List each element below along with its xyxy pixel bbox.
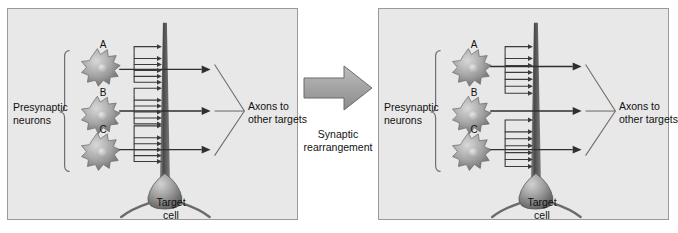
synaptic-rearrangement-arrow — [298, 60, 378, 116]
neuron-letter-a: A — [95, 39, 111, 50]
synapse-group-a — [134, 47, 157, 83]
axon-a-arrowhead — [573, 62, 582, 70]
synapse-group-c — [505, 120, 528, 167]
panel-before-rearrangement: A B C Presynaptic neurons Axons to other… — [7, 8, 298, 220]
synapse-group-a — [505, 47, 528, 94]
axon-convergence-chevron — [586, 64, 616, 155]
presynaptic-neuron-a — [81, 49, 120, 87]
axon-b-arrowhead — [573, 107, 582, 115]
synapse-terminals-a — [528, 44, 533, 96]
dendrite-shaft — [531, 23, 541, 180]
presynaptic-label-line2: neurons — [13, 114, 51, 126]
presynaptic-neuron-c — [81, 133, 120, 171]
presynaptic-label-line1: Presynaptic — [13, 101, 68, 113]
axon-c-arrowhead — [202, 146, 211, 154]
target-cell-label: Target cell — [140, 196, 202, 221]
axon-a-arrowhead — [202, 65, 211, 73]
axons-label-line2: other targets — [619, 113, 678, 125]
neuron-letter-b: B — [95, 87, 111, 98]
axon-c-arrowhead — [573, 146, 582, 154]
target-label-line1: Target — [156, 196, 185, 208]
synapse-terminals-a — [157, 44, 162, 85]
dendrite-shaft — [160, 23, 170, 180]
target-label-line2: cell — [534, 209, 550, 221]
presynaptic-neurons-label: Presynaptic neurons — [384, 101, 439, 126]
neuron-letter-b: B — [466, 87, 482, 98]
presynaptic-neuron-a — [452, 49, 491, 87]
presynaptic-label-line1: Presynaptic — [384, 101, 439, 113]
target-cell-label: Target cell — [511, 196, 573, 221]
axon-b-arrowhead — [202, 107, 211, 115]
neuron-letter-a: A — [466, 39, 482, 50]
presynaptic-label-line2: neurons — [384, 114, 422, 126]
panel-after-rearrangement: A B C Presynaptic neurons Axons to other… — [378, 8, 669, 220]
target-label-line2: cell — [163, 209, 179, 221]
axon-convergence-chevron — [215, 64, 245, 155]
presynaptic-neurons-label: Presynaptic neurons — [13, 101, 68, 126]
synapse-group-b — [134, 88, 157, 124]
transition-label-line2: rearrangement — [304, 141, 373, 153]
synaptic-rearrangement-label: Synaptic rearrangement — [298, 128, 378, 153]
target-label-line1: Target — [527, 196, 556, 208]
axons-label-line1: Axons to — [619, 100, 660, 112]
neuron-letter-c: C — [466, 124, 482, 135]
transition-label-line1: Synaptic — [318, 128, 358, 140]
synapse-group-c — [134, 126, 157, 162]
transition-block: Synaptic rearrangement — [298, 8, 378, 220]
presynaptic-neuron-c — [452, 133, 491, 171]
axons-label-line1: Axons to — [248, 100, 289, 112]
neuron-letter-c: C — [95, 124, 111, 135]
axons-to-other-targets-label: Axons to other targets — [619, 100, 678, 125]
